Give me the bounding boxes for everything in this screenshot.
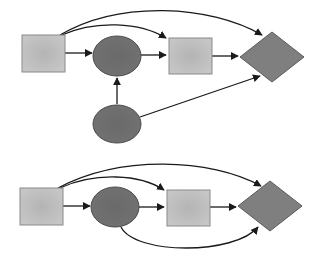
ellipse-node-b — [91, 187, 139, 227]
diamond-node-d — [240, 32, 304, 82]
edge-e-to-d — [140, 76, 260, 117]
edges — [58, 164, 261, 248]
square-node-c — [169, 38, 212, 74]
square-node-a — [20, 188, 63, 225]
top-diagram — [22, 11, 304, 143]
bottom-diagram — [20, 164, 302, 248]
ellipse-node-e — [93, 105, 141, 143]
edge-b-to-d — [121, 227, 258, 248]
diamond-node-d — [238, 181, 302, 231]
ellipse-node-b — [93, 36, 141, 76]
square-node-a — [22, 35, 65, 72]
edge-a-to-d — [58, 164, 261, 188]
diagram-canvas — [0, 0, 321, 253]
edges — [60, 11, 262, 117]
square-node-c — [167, 190, 210, 226]
edge-a-to-d — [60, 11, 262, 35]
